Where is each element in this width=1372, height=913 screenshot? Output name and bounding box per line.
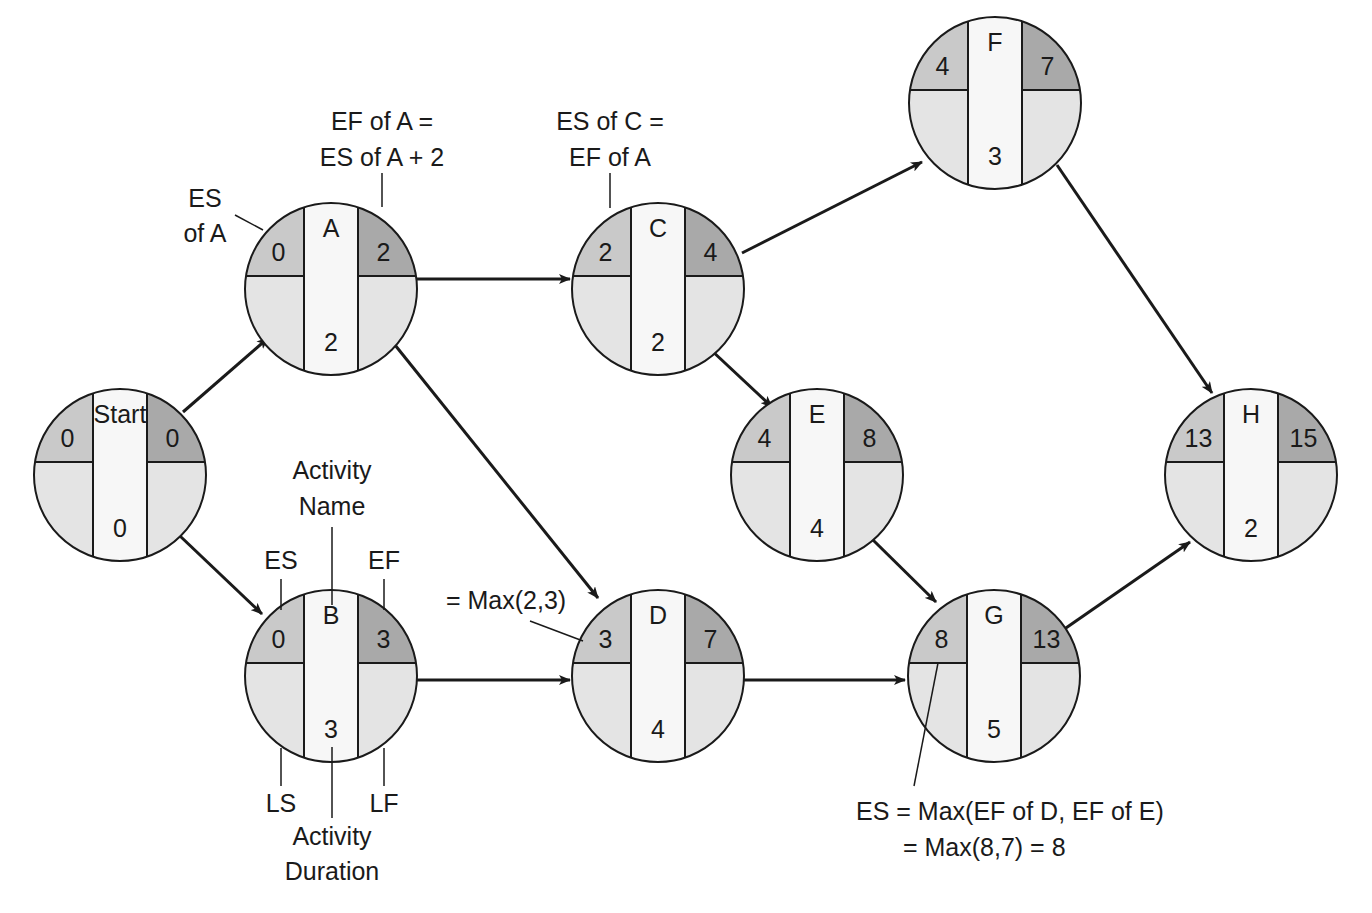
early-start-value: 3 — [599, 625, 613, 653]
edge-a-to-d — [395, 345, 598, 598]
activity-duration: 2 — [1244, 514, 1258, 542]
annotation-es-of-a-line2: of A — [183, 219, 226, 247]
annotation-es-of-a: ES of A — [183, 184, 263, 247]
legend-es: ES — [264, 546, 297, 574]
early-start-value: 4 — [936, 52, 950, 80]
early-start-value: 0 — [61, 424, 75, 452]
early-start-value: 0 — [272, 238, 286, 266]
activity-name: E — [809, 400, 826, 428]
activity-duration: 3 — [324, 715, 338, 743]
edge-start-to-a — [183, 338, 268, 412]
annotation-max-d: = Max(2,3) — [446, 586, 583, 641]
edge-e-to-g — [873, 540, 936, 602]
activity-name: D — [649, 601, 667, 629]
legend-activity-duration-line2: Duration — [285, 857, 380, 885]
early-finish-value: 4 — [704, 238, 718, 266]
activity-node-c: C242 — [572, 203, 744, 375]
edge-f-to-h — [1057, 165, 1212, 393]
early-finish-value: 7 — [704, 625, 718, 653]
early-finish-value: 8 — [863, 424, 877, 452]
activity-node-a: A022 — [245, 203, 417, 375]
activity-duration: 0 — [113, 514, 127, 542]
leader-line — [530, 621, 583, 641]
early-finish-value: 15 — [1290, 424, 1318, 452]
nodes: Start000A022B033C242D374E484F473G8135H13… — [34, 17, 1337, 762]
edge-start-to-b — [180, 536, 262, 614]
activity-name: F — [987, 28, 1002, 56]
early-finish-value: 13 — [1033, 625, 1061, 653]
annotation-es-of-c: ES of C = EF of A — [556, 107, 664, 208]
annotation-es-g-line1: ES = Max(EF of D, EF of E) — [856, 797, 1164, 825]
early-start-value: 8 — [935, 625, 949, 653]
early-finish-value: 3 — [377, 625, 391, 653]
activity-duration: 5 — [987, 715, 1001, 743]
activity-name: H — [1242, 400, 1260, 428]
annotation-es-of-c-line2: EF of A — [569, 143, 651, 171]
legend-activity-duration-line1: Activity — [292, 822, 372, 850]
annotation-ef-of-a-line1: EF of A = — [331, 107, 433, 135]
leader-line — [235, 215, 263, 230]
edge-g-to-h — [1063, 542, 1190, 630]
activity-name: G — [984, 601, 1003, 629]
activity-duration: 4 — [651, 715, 665, 743]
legend-activity-name-line1: Activity — [292, 456, 372, 484]
early-start-value: 2 — [599, 238, 613, 266]
early-start-value: 4 — [758, 424, 772, 452]
edge-c-to-f — [742, 162, 922, 253]
activity-on-node-network-diagram: Start000A022B033C242D374E484F473G8135H13… — [0, 0, 1372, 913]
activity-node-e: E484 — [731, 389, 903, 561]
activity-node-start: Start000 — [34, 389, 206, 561]
activity-name: B — [323, 601, 340, 629]
activity-node-f: F473 — [909, 17, 1081, 189]
activity-duration: 2 — [651, 328, 665, 356]
early-finish-value: 7 — [1041, 52, 1055, 80]
activity-name: A — [323, 214, 340, 242]
activity-name: Start — [94, 400, 147, 428]
activity-node-b: B033 — [245, 590, 417, 762]
annotation-es-of-c-line1: ES of C = — [556, 107, 664, 135]
annotation-max-d-text: = Max(2,3) — [446, 586, 566, 614]
early-start-value: 0 — [272, 625, 286, 653]
activity-node-h: H13152 — [1165, 389, 1337, 561]
early-finish-value: 2 — [377, 238, 391, 266]
activity-duration: 4 — [810, 514, 824, 542]
annotation-ef-of-a: EF of A = ES of A + 2 — [320, 107, 444, 207]
annotation-es-g-line2: = Max(8,7) = 8 — [903, 833, 1066, 861]
legend-activity-name-line2: Name — [299, 492, 366, 520]
legend-ef: EF — [368, 546, 400, 574]
activity-duration: 2 — [324, 328, 338, 356]
annotation-ef-of-a-line2: ES of A + 2 — [320, 143, 444, 171]
annotation-es-of-a-line1: ES — [188, 184, 221, 212]
early-finish-value: 0 — [166, 424, 180, 452]
legend-ls: LS — [266, 789, 297, 817]
activity-duration: 3 — [988, 142, 1002, 170]
activity-node-g: G8135 — [908, 590, 1080, 762]
edge-c-to-e — [710, 349, 772, 407]
activity-name: C — [649, 214, 667, 242]
activity-node-d: D374 — [572, 590, 744, 762]
legend-lf: LF — [369, 789, 398, 817]
early-start-value: 13 — [1185, 424, 1213, 452]
